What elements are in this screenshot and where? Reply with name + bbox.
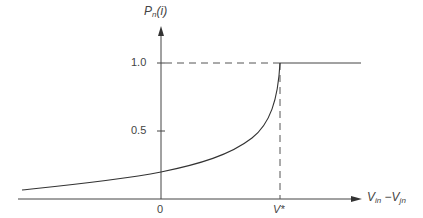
x-axis-arrow-icon [351, 196, 362, 202]
x-axis-label: Vin −Vjn [367, 190, 406, 205]
x-label-b: V [392, 190, 400, 204]
y-axis-arrow-icon [158, 26, 164, 36]
x-label-a: V [367, 190, 375, 204]
tick-label-y-1: 1.0 [131, 56, 146, 68]
tick-label-x-0: 0 [157, 203, 163, 215]
x-label-minus: − [381, 190, 391, 204]
probability-curve [22, 63, 280, 190]
y-axis-label: Pn(i) [144, 4, 167, 19]
x-label-b-sub: jn [400, 196, 406, 205]
chart-canvas [0, 0, 423, 218]
y-label-main: P [144, 4, 152, 18]
y-label-arg: (i) [156, 4, 167, 18]
tick-label-x-vstar: V* [273, 203, 285, 215]
tick-label-y-05: 0.5 [131, 124, 146, 136]
